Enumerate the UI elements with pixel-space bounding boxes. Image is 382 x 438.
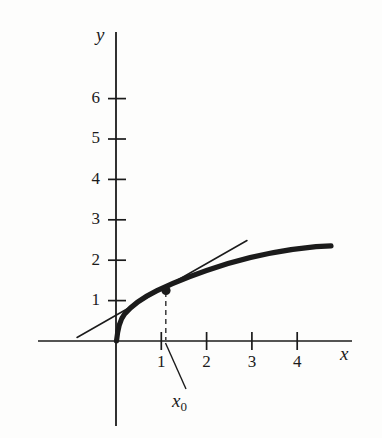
x-tick-label-2: 2 (198, 352, 216, 372)
x0-label: x0 (172, 390, 187, 415)
tangency-point-marker (161, 286, 170, 295)
x-tick-label-3: 3 (243, 352, 261, 372)
y-tick-label-5: 5 (82, 128, 100, 148)
y-tick-label-4: 4 (82, 169, 100, 189)
y-tick-label-1: 1 (82, 290, 100, 310)
y-tick-label-2: 2 (82, 250, 100, 270)
y-tick-label-6: 6 (82, 88, 100, 108)
x-tick-label-4: 4 (288, 352, 306, 372)
y-axis-label: y (96, 24, 104, 46)
figure-container: 1 2 3 4 5 6 1 2 3 4 y x x0 (0, 0, 382, 438)
y-axis-ticks (108, 99, 126, 301)
function-curve (117, 246, 332, 341)
x0-label-subscript: 0 (180, 399, 187, 414)
plot-canvas (0, 0, 382, 438)
x-tick-label-1: 1 (152, 352, 170, 372)
y-tick-label-3: 3 (82, 209, 100, 229)
x-axis-label: x (340, 343, 348, 365)
